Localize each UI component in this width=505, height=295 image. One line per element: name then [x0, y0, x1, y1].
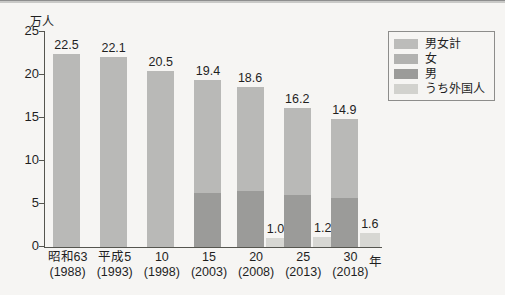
x-category-year: (1998)	[138, 265, 185, 280]
legend-label-male: 男	[425, 68, 437, 80]
bar-total: 20.5	[147, 71, 174, 247]
legend-item-female: 女	[394, 51, 489, 66]
x-axis-category-labels: 昭和63(1988)平成5(1993)10(1998)15(2003)20(20…	[44, 250, 382, 290]
bar-value-label: 14.9	[332, 103, 356, 117]
legend-label-female: 女	[425, 53, 437, 65]
legend-label-total: 男女計	[425, 38, 461, 50]
top-border-rule	[0, 0, 505, 3]
x-category-label: 昭和63(1988)	[44, 250, 91, 280]
bar-value-label: 19.4	[196, 64, 220, 78]
bar-group: 18.61.0	[233, 32, 280, 247]
y-tick-label: 10	[25, 152, 39, 167]
bar-value-label: 20.5	[149, 55, 173, 69]
legend-swatch-female	[394, 54, 418, 64]
bar-group: 22.5	[44, 32, 91, 247]
x-category-era: 20	[233, 250, 280, 265]
bar-group: 16.21.2	[280, 32, 327, 247]
legend-label-foreign: うち外国人	[425, 83, 485, 95]
x-category-era: 10	[138, 250, 185, 265]
x-category-era: 25	[280, 250, 327, 265]
bar-value-label: 22.5	[54, 38, 78, 52]
x-axis-unit-label: 年	[369, 251, 382, 270]
x-category-era: 15	[185, 250, 232, 265]
x-category-era: 30	[327, 250, 374, 265]
y-tick-label: 25	[25, 23, 39, 38]
x-category-year: (2008)	[233, 265, 280, 280]
bar-total: 14.9	[331, 119, 358, 247]
y-tick-label: 0	[32, 238, 39, 253]
bar-segment-male	[237, 191, 264, 247]
legend-swatch-total	[394, 39, 418, 49]
bar-value-label-foreign: 1.6	[361, 217, 378, 231]
bar-group: 14.91.6	[327, 32, 374, 247]
x-category-year: (2018)	[327, 265, 374, 280]
bar-total: 16.2	[284, 108, 311, 247]
x-axis-line	[44, 247, 382, 248]
x-category-year: (1993)	[91, 265, 138, 280]
x-category-label: 10(1998)	[138, 250, 185, 280]
bar-foreign: 1.6	[360, 233, 380, 247]
x-category-year: (1988)	[44, 265, 91, 280]
y-tick-label: 20	[25, 66, 39, 81]
x-category-era: 昭和63	[44, 250, 91, 265]
legend-swatch-male	[394, 69, 418, 79]
bar-total: 22.5	[53, 54, 80, 248]
bar-total: 19.4	[194, 80, 221, 247]
bar-total: 18.6	[237, 87, 264, 247]
bar-group: 19.4	[185, 32, 232, 247]
legend-swatch-foreign	[394, 84, 418, 94]
bar-segment-male	[194, 193, 221, 247]
bar-value-label: 18.6	[238, 71, 262, 85]
x-category-label: 平成5(1993)	[91, 250, 138, 280]
bar-segment-male	[284, 195, 311, 247]
bar-group: 20.5	[138, 32, 185, 247]
legend-item-male: 男	[394, 66, 489, 81]
bar-segment-male	[331, 198, 358, 247]
x-category-label: 25(2013)	[280, 250, 327, 280]
y-tick-label: 15	[25, 109, 39, 124]
x-category-era: 平成5	[91, 250, 138, 265]
bar-value-label: 22.1	[101, 41, 125, 55]
bar-value-label: 16.2	[285, 92, 309, 106]
x-category-label: 15(2003)	[185, 250, 232, 280]
x-category-label: 30(2018)	[327, 250, 374, 280]
legend-item-total: 男女計	[394, 36, 489, 51]
chart-legend: 男女計 女 男 うち外国人	[388, 31, 495, 101]
bar-total: 22.1	[100, 57, 127, 247]
bar-group: 22.1	[91, 32, 138, 247]
x-category-year: (2013)	[280, 265, 327, 280]
legend-item-foreign: うち外国人	[394, 81, 489, 96]
plot-area: 0510152025 22.522.120.519.418.61.016.21.…	[44, 32, 374, 248]
x-category-year: (2003)	[185, 265, 232, 280]
x-category-label: 20(2008)	[233, 250, 280, 280]
y-tick-label: 5	[32, 195, 39, 210]
